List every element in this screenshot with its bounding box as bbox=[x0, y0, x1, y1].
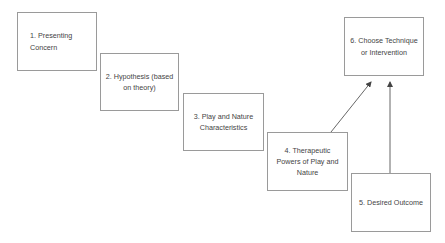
arrow-4-to-6 bbox=[331, 82, 371, 132]
arrows-layer bbox=[0, 0, 445, 243]
